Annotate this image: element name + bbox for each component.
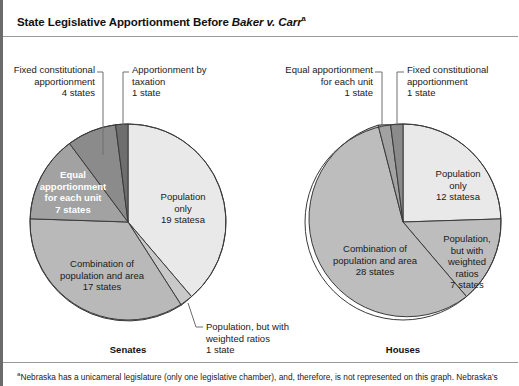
leader-senates-weighted-ratios bbox=[188, 303, 203, 327]
label-senates-weighted-ratios: Population, but with weighted ratios 1 s… bbox=[206, 321, 336, 356]
footnote-marker-houses: a bbox=[475, 191, 480, 202]
footnote-marker-senates: a bbox=[200, 214, 205, 225]
leader-houses-equal-apportionment bbox=[375, 72, 382, 127]
label-houses-weighted-ratios: Population, but with weighted ratios 7 s… bbox=[430, 233, 504, 291]
label-senates-equal-apportionment: Equal apportionment for each unit 7 stat… bbox=[23, 169, 123, 215]
label-houses-combination: Combination of population and area 28 st… bbox=[313, 243, 437, 278]
leader-houses-fixed-constitutional bbox=[397, 72, 404, 126]
pie-houses bbox=[305, 124, 501, 320]
chart-caption-senates: Senates bbox=[78, 344, 178, 355]
footnote: aNebraska has a unicameral legislature (… bbox=[17, 368, 509, 383]
label-senates-fixed-constitutional: Fixed constitutional apportionment 4 sta… bbox=[3, 64, 95, 99]
label-senates-population-only: Population only 19 statesa bbox=[140, 191, 226, 226]
footnote-text: Nebraska has a unicameral legislature (o… bbox=[20, 372, 497, 382]
label-houses-population-only: Population only 12 statesa bbox=[415, 168, 501, 203]
leader-senates-taxation bbox=[123, 72, 129, 127]
chart-caption-houses: Houses bbox=[353, 344, 453, 355]
label-senates-combination: Combination of population and area 17 st… bbox=[40, 258, 164, 293]
label-senates-taxation: Apportionment by taxation 1 state bbox=[132, 64, 242, 99]
label-houses-fixed-constitutional: Fixed constitutional apportionment 1 sta… bbox=[407, 64, 519, 99]
label-houses-equal-apportionment: Equal apportionment for each unit 1 stat… bbox=[261, 64, 373, 99]
